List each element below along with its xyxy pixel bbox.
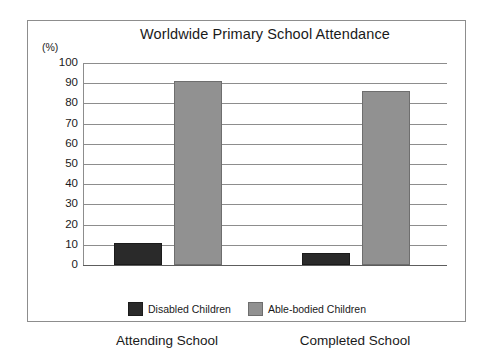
- chart-title: Worldwide Primary School Attendance: [83, 26, 447, 42]
- y-axis-tick-label: 80: [42, 97, 78, 109]
- legend-swatch-icon: [128, 302, 143, 316]
- legend-swatch-icon: [248, 302, 263, 316]
- y-axis-tick-label: 40: [42, 178, 78, 190]
- y-axis-tick-label: 70: [42, 118, 78, 130]
- legend-label: Disabled Children: [148, 303, 231, 315]
- y-axis-tick-label: 30: [42, 198, 78, 210]
- y-axis-tick-labels: 1009080706050403020100: [40, 63, 78, 265]
- legend-item[interactable]: Able-bodied Children: [248, 302, 366, 316]
- y-axis-tick-label: 50: [42, 158, 78, 170]
- y-axis-tick-label: 90: [42, 77, 78, 89]
- plot-area: Attending SchoolCompleted School: [83, 63, 447, 265]
- gridline: [83, 63, 447, 64]
- y-axis-tick-label: 60: [42, 138, 78, 150]
- y-axis-tick-label: 20: [42, 219, 78, 231]
- y-axis-unit-label: (%): [42, 41, 58, 53]
- legend-item[interactable]: Disabled Children: [128, 302, 231, 316]
- y-axis-tick-label: 100: [42, 57, 78, 69]
- y-axis-tick-label: 10: [42, 239, 78, 251]
- y-axis-tick-label: 0: [42, 259, 78, 271]
- bar-disabled-1: [302, 253, 350, 265]
- gridline: [83, 83, 447, 84]
- bar-able-bodied-0: [174, 81, 222, 265]
- bar-disabled-0: [114, 243, 162, 265]
- legend-label: Able-bodied Children: [268, 303, 366, 315]
- x-axis-category-label: Completed School: [265, 333, 445, 348]
- gridline: [83, 265, 447, 266]
- chart-legend: Disabled ChildrenAble-bodied Children: [0, 302, 494, 316]
- bar-able-bodied-1: [362, 91, 410, 265]
- x-axis-category-label: Attending School: [77, 333, 257, 348]
